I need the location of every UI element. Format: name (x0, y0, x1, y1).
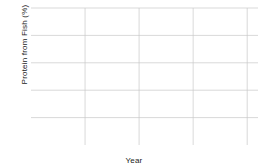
chart-figure: Protein from Fish (%) Year (0, 0, 268, 168)
gridlines (31, 8, 258, 145)
plot-area (0, 0, 268, 168)
